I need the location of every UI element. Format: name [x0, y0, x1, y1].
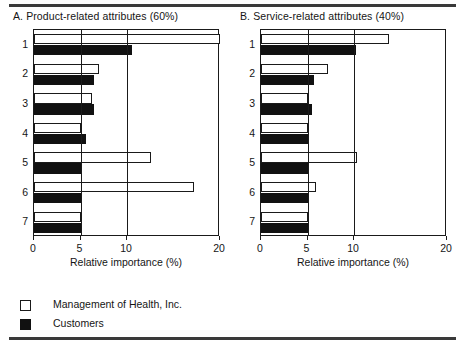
legend-item-management: Management of Health, Inc. — [20, 297, 320, 316]
bar-group-7 — [34, 207, 218, 237]
bar-customers-4 — [34, 134, 86, 144]
gridline-5 — [308, 30, 309, 235]
x-tick-mark-0 — [33, 236, 34, 240]
y-tick-label-4: 4 — [237, 127, 255, 139]
bar-group-3 — [34, 89, 218, 119]
x-tick-mark-5 — [307, 236, 308, 240]
y-tick-label-6: 6 — [10, 186, 28, 198]
bar-customers-3 — [34, 104, 94, 114]
bar-group-2 — [34, 60, 218, 90]
x-tick-label-5: 5 — [77, 242, 83, 254]
bar-customers-4 — [261, 134, 309, 144]
x-tick-label-0: 0 — [30, 242, 36, 254]
y-tick-label-5: 5 — [10, 156, 28, 168]
bar-customers-3 — [261, 104, 312, 114]
bar-customers-7 — [34, 223, 81, 233]
x-tick-mark-10 — [353, 236, 354, 240]
bar-customers-2 — [34, 75, 94, 85]
bar-group-1 — [261, 30, 445, 60]
bar-group-2 — [261, 60, 445, 90]
top-rule — [9, 4, 456, 7]
bar-management-4 — [34, 123, 81, 133]
bar-management-2 — [261, 64, 328, 74]
gridline-10 — [354, 30, 355, 235]
x-tick-label-20: 20 — [213, 242, 225, 254]
bar-customers-5 — [34, 163, 81, 173]
bar-group-7 — [261, 207, 445, 237]
x-tick-label-20: 20 — [440, 242, 452, 254]
y-tick-label-5: 5 — [237, 156, 255, 168]
bar-management-3 — [34, 93, 92, 103]
panel-a-plot-area — [33, 29, 219, 236]
bar-management-7 — [261, 212, 308, 222]
chart-panel-b: B. Service-related attributes (40%) 1234… — [237, 10, 462, 280]
legend-item-customers: Customers — [20, 316, 320, 335]
bar-management-1 — [261, 34, 389, 44]
y-tick-label-4: 4 — [10, 127, 28, 139]
bar-group-5 — [261, 148, 445, 178]
bar-group-4 — [34, 119, 218, 149]
chart-panel-a: A. Product-related attributes (60%) 1234… — [10, 10, 235, 280]
y-tick-label-2: 2 — [237, 67, 255, 79]
bar-management-2 — [34, 64, 99, 74]
bar-group-3 — [261, 89, 445, 119]
y-tick-label-1: 1 — [237, 38, 255, 50]
panel-b-x-axis-title: Relative importance (%) — [260, 256, 446, 268]
bar-management-3 — [261, 93, 308, 103]
legend-label-customers: Customers — [53, 317, 104, 329]
bar-customers-7 — [261, 223, 308, 233]
bar-customers-1 — [34, 45, 132, 55]
bar-customers-2 — [261, 75, 314, 85]
panel-b-title: B. Service-related attributes (40%) — [240, 10, 404, 22]
bar-customers-6 — [34, 193, 81, 203]
gridline-5 — [81, 30, 82, 235]
bar-management-5 — [34, 152, 151, 162]
y-tick-label-2: 2 — [10, 67, 28, 79]
bar-management-5 — [261, 152, 357, 162]
legend-label-management: Management of Health, Inc. — [53, 298, 182, 310]
x-tick-mark-5 — [80, 236, 81, 240]
legend: Management of Health, Inc. Customers — [20, 297, 320, 335]
x-tick-mark-0 — [260, 236, 261, 240]
bar-customers-6 — [261, 193, 308, 203]
x-tick-label-10: 10 — [347, 242, 359, 254]
x-tick-mark-10 — [126, 236, 127, 240]
bar-management-6 — [34, 182, 194, 192]
bar-group-6 — [261, 178, 445, 208]
panel-a-x-axis-title: Relative importance (%) — [33, 256, 219, 268]
bottom-rule — [9, 337, 456, 340]
gridline-10 — [127, 30, 128, 235]
panel-a-title: A. Product-related attributes (60%) — [13, 10, 178, 22]
y-tick-label-3: 3 — [237, 97, 255, 109]
x-tick-label-10: 10 — [120, 242, 132, 254]
y-tick-label-1: 1 — [10, 38, 28, 50]
bar-management-7 — [34, 212, 81, 222]
panel-b-bars — [261, 30, 445, 235]
legend-swatch-customers — [20, 319, 31, 330]
y-tick-label-3: 3 — [10, 97, 28, 109]
legend-swatch-management — [20, 300, 31, 311]
x-tick-label-0: 0 — [257, 242, 263, 254]
panel-b-plot-area — [260, 29, 446, 236]
panel-a-bars — [34, 30, 218, 235]
x-tick-mark-20 — [446, 236, 447, 240]
bar-group-5 — [34, 148, 218, 178]
bar-customers-5 — [261, 163, 308, 173]
bar-group-1 — [34, 30, 218, 60]
bar-group-6 — [34, 178, 218, 208]
y-tick-label-6: 6 — [237, 186, 255, 198]
x-tick-label-5: 5 — [304, 242, 310, 254]
x-tick-mark-20 — [219, 236, 220, 240]
figure-root: A. Product-related attributes (60%) 1234… — [0, 0, 465, 353]
bar-management-4 — [261, 123, 308, 133]
y-tick-label-7: 7 — [237, 215, 255, 227]
bar-group-4 — [261, 119, 445, 149]
y-tick-label-7: 7 — [10, 215, 28, 227]
